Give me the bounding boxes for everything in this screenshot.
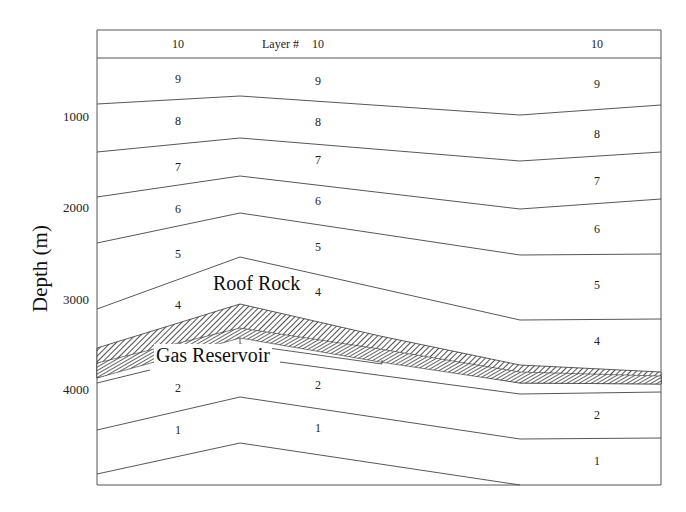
layer-label: 2 xyxy=(594,408,600,423)
boundary-6-5 xyxy=(97,213,661,255)
y-tick-2000: 2000 xyxy=(45,200,89,216)
layer-label: 9 xyxy=(315,74,321,89)
roof-rock-label: Roof Rock xyxy=(213,272,300,295)
y-axis-title: Depth (m) xyxy=(28,225,53,312)
layer-label: 1 xyxy=(315,421,321,436)
boundary-1-base xyxy=(97,443,520,485)
layer-label: 1 xyxy=(175,423,181,438)
layer-label: 8 xyxy=(594,127,600,142)
layer-label: 4 xyxy=(315,285,321,300)
boundary-8-7 xyxy=(97,138,661,161)
layer-label: 7 xyxy=(175,160,181,175)
layer-boundaries xyxy=(97,96,661,485)
layer-label: 8 xyxy=(175,114,181,129)
layer-label: 9 xyxy=(175,72,181,87)
layer-label: 5 xyxy=(175,247,181,262)
boundary-7-6 xyxy=(97,176,661,209)
plot-frame xyxy=(97,30,661,485)
y-tick-4000: 4000 xyxy=(45,382,89,398)
geologic-cross-section xyxy=(0,0,686,512)
layer-label: 6 xyxy=(594,222,600,237)
layer-label: 2 xyxy=(175,381,181,396)
layer-label: 9 xyxy=(594,77,600,92)
layer-label: 4 xyxy=(594,334,600,349)
layer-label: 7 xyxy=(594,174,600,189)
layer-label: 6 xyxy=(315,194,321,209)
layer-label: 5 xyxy=(594,278,600,293)
layer-label: 4 xyxy=(175,298,181,313)
layer-label: 7 xyxy=(315,153,321,168)
layer-label: 10 xyxy=(312,37,324,52)
layer-label: 2 xyxy=(315,378,321,393)
boundary-9-8 xyxy=(97,96,661,115)
y-tick-1000: 1000 xyxy=(45,109,89,125)
boundary-5-4 xyxy=(97,257,661,320)
layer-label: 10 xyxy=(172,37,184,52)
layer-label: 5 xyxy=(315,240,321,255)
layer-number-header: Layer # xyxy=(262,37,299,52)
layer-label: 10 xyxy=(591,37,603,52)
layer-label: 1 xyxy=(594,454,600,469)
layer-label: 6 xyxy=(175,202,181,217)
boundary-2-1 xyxy=(97,397,661,439)
gas-reservoir-label: Gas Reservoir xyxy=(154,344,272,366)
layer-label: 8 xyxy=(315,115,321,130)
